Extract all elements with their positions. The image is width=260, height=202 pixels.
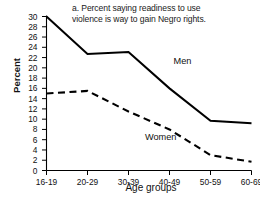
series-line-men [47, 17, 252, 124]
chart-container: a. Percent saying readiness to use viole… [0, 0, 260, 202]
plot-area [0, 0, 260, 202]
series-line-women [47, 91, 252, 162]
x-axis-ticks [47, 171, 252, 176]
y-axis-ticks [42, 17, 47, 171]
axis-lines [47, 16, 252, 171]
